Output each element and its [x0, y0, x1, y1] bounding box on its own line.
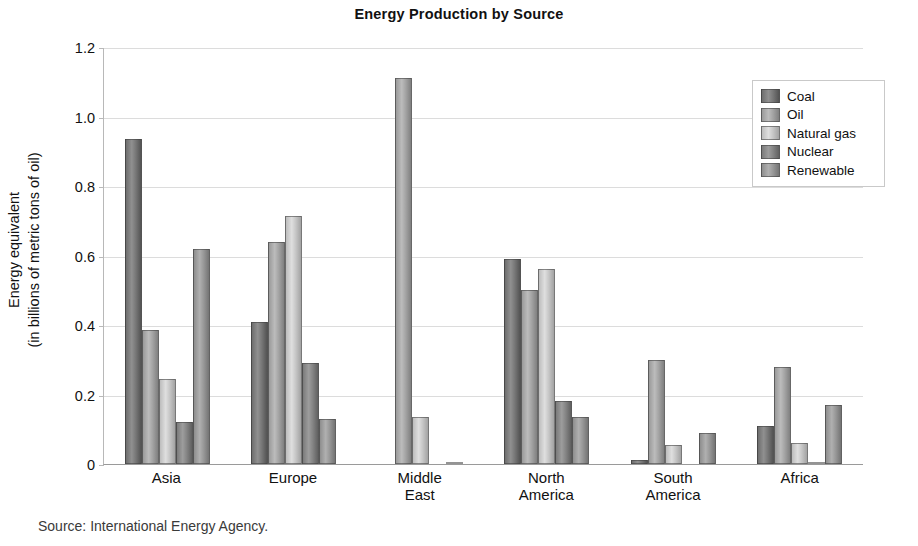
y-axis-tick-label: 0.8: [51, 179, 95, 195]
bar-fill: [176, 422, 193, 464]
legend-label: Renewable: [787, 163, 855, 178]
bar-fill: [757, 426, 774, 464]
legend-item: Natural gas: [761, 124, 877, 143]
bar: [251, 322, 268, 464]
bar: [808, 462, 825, 464]
bar: [193, 249, 210, 464]
source-note: Source: International Energy Agency.: [38, 518, 268, 534]
x-axis-category-line: Africa: [736, 470, 863, 487]
bar: [504, 259, 521, 464]
bar-group: [231, 48, 358, 464]
bar: [285, 216, 302, 464]
bar-fill: [555, 401, 572, 464]
bar-fill: [808, 462, 825, 464]
chart-title: Energy Production by Source: [0, 6, 918, 22]
bar-group: [610, 48, 737, 464]
bar-fill: [142, 330, 159, 464]
y-axis-tick-label: 1.2: [51, 40, 95, 56]
bar-fill: [251, 322, 268, 464]
bar-fill: [319, 419, 336, 464]
legend-label: Coal: [787, 89, 815, 104]
bar-fill: [791, 443, 808, 464]
bar-fill: [665, 445, 682, 464]
y-axis-tick-label: 0.4: [51, 318, 95, 334]
bar-fill: [395, 78, 412, 464]
x-axis-category-line: America: [483, 487, 610, 504]
legend-item: Oil: [761, 106, 877, 125]
legend-swatch: [761, 89, 780, 103]
bar: [665, 445, 682, 464]
x-axis-category-line: East: [356, 487, 483, 504]
bar: [159, 379, 176, 464]
bar: [757, 426, 774, 464]
bar-fill: [193, 249, 210, 464]
chart-figure: Energy Production by Source Energy equiv…: [0, 0, 918, 546]
y-axis-label: Energy equivalent (in billions of metric…: [2, 60, 48, 440]
x-axis-category-label: Africa: [736, 470, 863, 504]
legend-label: Oil: [787, 107, 804, 122]
legend-swatch: [761, 163, 780, 177]
x-axis-category-label: NorthAmerica: [483, 470, 610, 504]
x-axis-category-line: America: [610, 487, 737, 504]
x-axis-category-line: South: [610, 470, 737, 487]
bar: [446, 462, 463, 464]
bar-fill: [302, 363, 319, 464]
bar-group: [104, 48, 231, 464]
y-axis-tick-mark: [99, 465, 104, 466]
bar: [142, 330, 159, 464]
bar-group: [357, 48, 484, 464]
y-axis-tick-label: 0.6: [51, 249, 95, 265]
plot-area: 00.20.40.60.81.01.2: [103, 48, 863, 465]
bar-fill: [268, 242, 285, 464]
bar: [268, 242, 285, 464]
bar-fill: [125, 139, 142, 464]
x-axis-category-line: Europe: [230, 470, 357, 487]
legend-label: Nuclear: [787, 144, 834, 159]
legend-item: Nuclear: [761, 143, 877, 162]
bar: [319, 419, 336, 464]
bar-fill: [774, 367, 791, 464]
bar-fill: [631, 460, 648, 464]
bar-fill: [159, 379, 176, 464]
bar: [648, 360, 665, 464]
y-axis-tick-label: 0.2: [51, 388, 95, 404]
bar: [395, 78, 412, 464]
bar: [176, 422, 193, 464]
x-axis-category-line: Middle: [356, 470, 483, 487]
bar-fill: [285, 216, 302, 464]
bar-fill: [412, 417, 429, 464]
x-axis-labels: AsiaEuropeMiddleEastNorthAmericaSouthAme…: [103, 470, 863, 504]
y-axis-tick-label: 0: [51, 457, 95, 473]
bar: [412, 417, 429, 464]
bar-fill: [572, 417, 589, 464]
x-axis-category-line: North: [483, 470, 610, 487]
bar: [774, 367, 791, 464]
x-axis-category-label: SouthAmerica: [610, 470, 737, 504]
bar-fill: [699, 433, 716, 464]
bar-group: [484, 48, 611, 464]
bar: [699, 433, 716, 464]
x-axis-category-label: MiddleEast: [356, 470, 483, 504]
x-axis-category-line: Asia: [103, 470, 230, 487]
bar: [572, 417, 589, 464]
legend-swatch: [761, 126, 780, 140]
legend-item: Coal: [761, 87, 877, 106]
legend-item: Renewable: [761, 161, 877, 180]
bar-fill: [521, 290, 538, 464]
x-axis-category-label: Europe: [230, 470, 357, 504]
bar-fill: [446, 462, 463, 464]
bar: [302, 363, 319, 464]
legend-label: Natural gas: [787, 126, 856, 141]
y-axis-label-line2: (in billions of metric tons of oil): [25, 152, 45, 347]
bar-fill: [504, 259, 521, 464]
bar-fill: [825, 405, 842, 464]
bar: [555, 401, 572, 464]
y-axis-tick-label: 1.0: [51, 110, 95, 126]
bar: [521, 290, 538, 464]
bar: [791, 443, 808, 464]
bar-fill: [648, 360, 665, 464]
bar: [825, 405, 842, 464]
bar: [538, 269, 555, 464]
y-axis-label-line1: Energy equivalent: [5, 152, 25, 347]
chart-legend: CoalOilNatural gasNuclearRenewable: [752, 80, 885, 187]
